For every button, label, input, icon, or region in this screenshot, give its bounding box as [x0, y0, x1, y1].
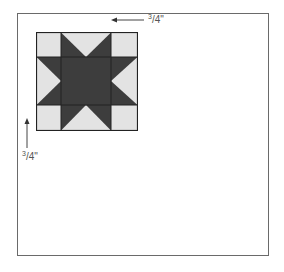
star-block	[36, 32, 138, 131]
top-offset-label: 3/4"	[148, 13, 164, 25]
center-square	[61, 57, 111, 105]
arrow-up-icon	[23, 118, 31, 148]
left-offset-label: 3/4"	[22, 150, 38, 162]
arrow-left-icon	[111, 16, 145, 24]
